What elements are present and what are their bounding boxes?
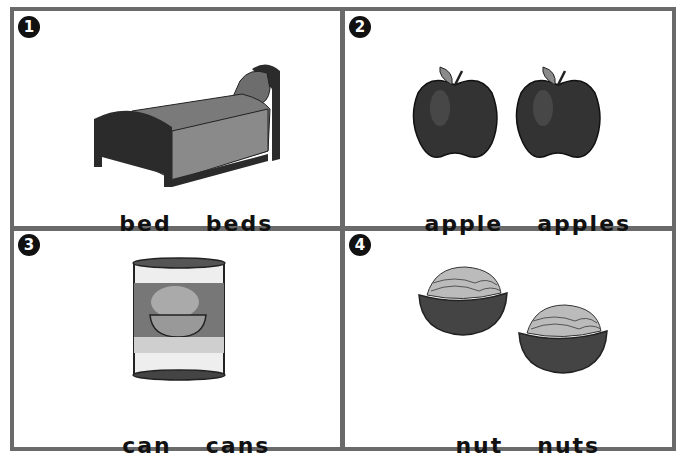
number-badge: 1 — [18, 16, 40, 38]
number-badge: 3 — [18, 234, 40, 256]
bed-icon — [92, 59, 282, 189]
word-pair: cancans — [14, 408, 340, 458]
number-badge: 4 — [349, 234, 371, 256]
number-badge: 2 — [349, 16, 371, 38]
plural-word: nuts — [537, 433, 600, 458]
singular-word: nut — [455, 433, 503, 458]
nut-icon — [515, 301, 610, 376]
singular-word: can — [122, 433, 172, 458]
card-apple: 2 appleapples — [345, 11, 672, 226]
card-nut: 4 nutnuts — [345, 231, 672, 447]
word-pair: nutnuts — [345, 408, 672, 458]
card-bed: 1 bedbeds — [14, 11, 340, 226]
can-icon — [130, 257, 230, 382]
plural-word: cans — [206, 433, 271, 458]
apple-icon — [410, 63, 500, 163]
card-can: 3 cancans — [14, 231, 340, 447]
nut-icon — [415, 263, 510, 338]
apple-icon — [513, 63, 603, 163]
